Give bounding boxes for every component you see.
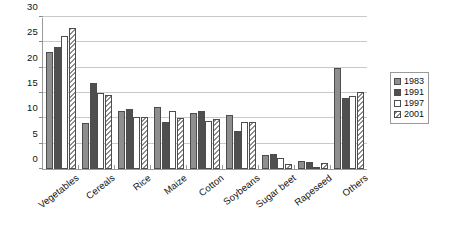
bar xyxy=(90,83,97,169)
gridline xyxy=(43,16,367,17)
legend-swatch-icon xyxy=(394,111,401,118)
bar xyxy=(321,163,328,169)
x-axis-label: Cereals xyxy=(84,172,117,201)
bar-group xyxy=(115,18,151,169)
bar xyxy=(357,92,364,169)
bar xyxy=(169,111,176,169)
bar xyxy=(141,117,148,169)
legend-label: 1997 xyxy=(404,99,424,108)
bar xyxy=(226,115,233,169)
bar xyxy=(177,118,184,169)
bar xyxy=(349,96,356,169)
bar xyxy=(126,109,133,169)
bar xyxy=(198,111,205,169)
bar xyxy=(118,111,125,169)
bar xyxy=(105,95,112,169)
bar xyxy=(277,158,284,169)
bar xyxy=(154,107,161,169)
bar xyxy=(213,119,220,169)
legend-item: 1997 xyxy=(394,98,424,109)
chart-figure: 051015202530 VegetablesCerealsRiceMaizeC… xyxy=(0,0,458,235)
legend-swatch-icon xyxy=(394,89,401,96)
x-axis-label: Rapeseed xyxy=(292,172,334,208)
bar xyxy=(298,161,305,169)
legend-label: 1991 xyxy=(404,88,424,97)
x-axis-label: Maize xyxy=(162,172,189,197)
bar xyxy=(249,122,256,169)
y-axis-tick-label: 15 xyxy=(27,77,38,88)
x-axis-label: Rice xyxy=(131,172,153,193)
x-axis-label: Cotton xyxy=(196,172,225,198)
legend-swatch-icon xyxy=(394,78,401,85)
bar-group xyxy=(223,18,259,169)
legend: 1983199119972001 xyxy=(390,72,429,124)
bar xyxy=(262,155,269,169)
bar-group xyxy=(331,18,367,169)
bar xyxy=(97,93,104,169)
x-axis-labels: VegetablesCerealsRiceMaizeCottonSoybeans… xyxy=(42,172,367,234)
bar-group xyxy=(151,18,187,169)
bar xyxy=(162,122,169,169)
bar xyxy=(82,123,89,169)
bar-group xyxy=(187,18,223,169)
bar xyxy=(61,36,68,169)
y-axis-tick-mark xyxy=(39,16,43,17)
x-axis-label: Vegetables xyxy=(36,172,81,210)
bar xyxy=(270,154,277,169)
y-axis-tick-label: 5 xyxy=(33,127,38,138)
legend-item: 2001 xyxy=(394,109,424,120)
legend-label: 1983 xyxy=(404,77,424,86)
bar xyxy=(54,47,61,169)
bar xyxy=(306,162,313,169)
bar xyxy=(190,113,197,169)
plot-area: 051015202530 xyxy=(42,18,367,170)
legend-item: 1983 xyxy=(394,76,424,87)
legend-swatch-icon xyxy=(394,100,401,107)
bar-group xyxy=(259,18,295,169)
x-axis-label: Others xyxy=(340,172,370,199)
y-axis-tick-label: 30 xyxy=(27,1,38,12)
bar xyxy=(205,121,212,169)
bar xyxy=(313,167,320,169)
bar xyxy=(133,117,140,169)
bar xyxy=(342,98,349,169)
bar xyxy=(69,28,76,169)
y-axis-tick-label: 10 xyxy=(27,102,38,113)
legend-label: 2001 xyxy=(404,110,424,119)
y-axis-tick-label: 25 xyxy=(27,26,38,37)
bar xyxy=(46,52,53,169)
y-axis-tick-label: 20 xyxy=(27,51,38,62)
bar-group xyxy=(43,18,79,169)
bar xyxy=(241,122,248,169)
y-axis-tick-label: 0 xyxy=(33,153,38,164)
bar xyxy=(334,68,341,169)
bar-group xyxy=(79,18,115,169)
bar-group xyxy=(295,18,331,169)
bar xyxy=(234,131,241,169)
bar xyxy=(285,164,292,169)
bar-groups xyxy=(43,18,367,169)
legend-item: 1991 xyxy=(394,87,424,98)
